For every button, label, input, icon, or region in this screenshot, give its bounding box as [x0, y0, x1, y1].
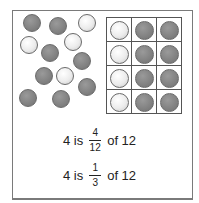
gray-counter: [73, 52, 91, 70]
gray-counter: [23, 14, 41, 32]
gray-counter: [41, 44, 59, 62]
gray-counter: [160, 69, 179, 88]
equation-suffix: of 12: [107, 133, 136, 148]
gray-counter: [78, 78, 96, 96]
equation-prefix: 4 is: [63, 133, 83, 148]
grid-cell: [156, 41, 182, 66]
gray-counter: [52, 90, 70, 108]
equation-prefix: 4 is: [63, 168, 83, 183]
numerator: 1: [92, 163, 98, 173]
gray-counter: [19, 89, 37, 107]
gray-counter: [49, 17, 67, 35]
equation-suffix: of 12: [107, 168, 136, 183]
fraction-bar: [89, 175, 101, 176]
gray-counter: [135, 45, 154, 64]
grid-cell: [131, 65, 157, 90]
fraction-4-12: 4 12: [89, 128, 101, 153]
gray-counter: [35, 67, 53, 85]
numerator: 4: [92, 128, 98, 138]
gray-counter: [135, 93, 154, 112]
gray-counter: [160, 45, 179, 64]
grid-cell: [131, 41, 157, 66]
denominator: 3: [92, 178, 98, 188]
denominator: 12: [90, 143, 101, 153]
white-counter: [110, 69, 129, 88]
white-counter: [110, 93, 129, 112]
white-counter: [78, 14, 96, 32]
white-counter: [110, 21, 129, 40]
grid-cell: [156, 17, 182, 42]
fraction-1-3: 1 3: [89, 163, 101, 188]
grid-cell: [131, 17, 157, 42]
grid-cell: [106, 41, 132, 66]
white-counter: [110, 45, 129, 64]
equation-4-of-12: 4 is 4 12 of 12: [0, 128, 199, 153]
white-counter: [64, 33, 82, 51]
equation-1-of-3: 4 is 1 3 of 12: [0, 163, 199, 188]
white-counter: [20, 36, 38, 54]
gray-counter: [160, 21, 179, 40]
grid-cell: [106, 89, 132, 114]
grid-cell: [106, 65, 132, 90]
grid-cell: [156, 65, 182, 90]
gray-counter: [135, 69, 154, 88]
gray-counter: [160, 93, 179, 112]
grid-cell: [106, 17, 132, 42]
fraction-bar: [89, 140, 101, 141]
gray-counter: [135, 21, 154, 40]
white-counter: [56, 67, 74, 85]
grid-cell: [131, 89, 157, 114]
counter-array-grid: [106, 17, 181, 113]
grid-cell: [156, 89, 182, 114]
